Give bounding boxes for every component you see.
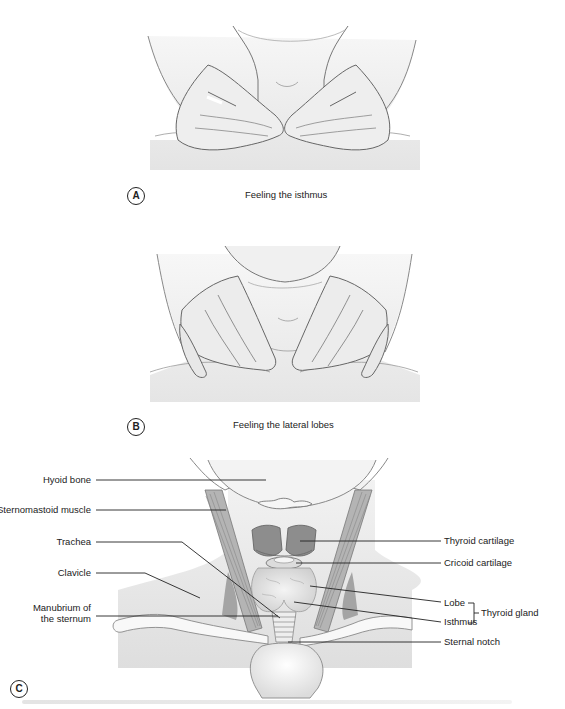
- label-clavicle: Clavicle: [58, 567, 91, 578]
- figure-caption-blurred: [22, 700, 512, 704]
- panel-a: A Feeling the isthmus: [0, 0, 565, 210]
- label-thyroid-cartilage: Thyroid cartilage: [444, 535, 514, 546]
- label-cricoid-cartilage: Cricoid cartilage: [444, 557, 512, 568]
- label-sternomastoid-muscle: Sternomastoid muscle: [0, 504, 91, 515]
- panel-letter-c: C: [10, 680, 28, 698]
- label-isthmus: Isthmus: [444, 616, 477, 627]
- panel-b: B Feeling the lateral lobes: [0, 240, 565, 440]
- label-manubrium-line2: the sternum: [41, 613, 91, 624]
- illustration-feeling-isthmus: [0, 0, 565, 210]
- panel-letter-a: A: [127, 187, 145, 205]
- label-thyroid-gland: Thyroid gland: [481, 607, 539, 618]
- panel-a-caption: Feeling the isthmus: [245, 189, 327, 200]
- panel-b-caption: Feeling the lateral lobes: [233, 419, 334, 430]
- label-manubrium-line1: Manubrium of: [33, 602, 91, 613]
- label-sternal-notch: Sternal notch: [444, 636, 500, 647]
- panel-c: Hyoid bone Sternomastoid muscle Trachea …: [0, 450, 565, 700]
- panel-letter-b: B: [127, 418, 145, 436]
- label-hyoid-bone: Hyoid bone: [43, 474, 91, 485]
- label-lobe: Lobe: [444, 597, 465, 608]
- illustration-feeling-lateral-lobes: [0, 240, 565, 440]
- label-trachea: Trachea: [57, 536, 92, 547]
